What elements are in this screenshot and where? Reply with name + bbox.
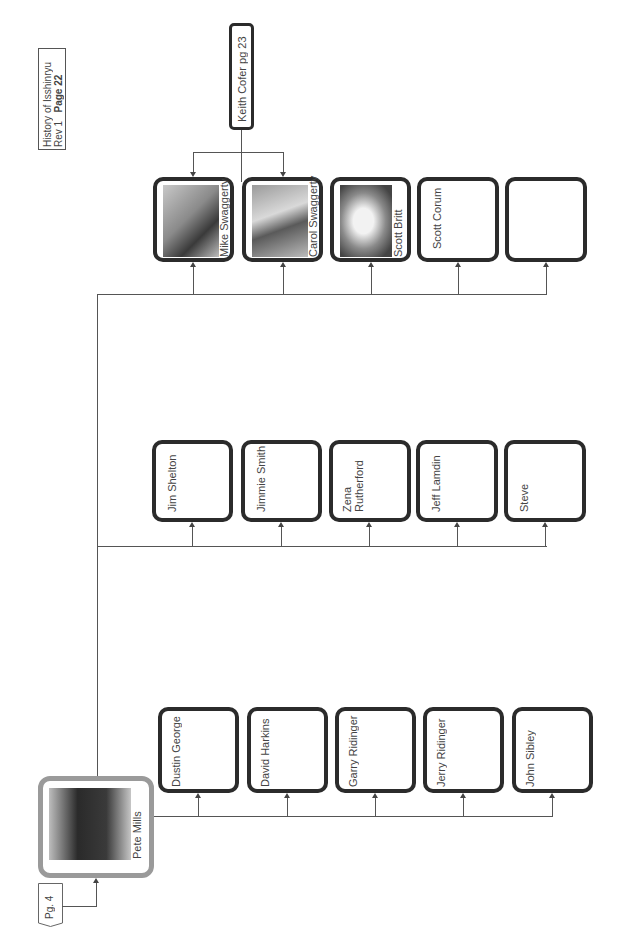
header-rev: Rev 1 Page 22 [53,53,64,147]
student-name: John Sibley [524,717,536,787]
arrow-icon [372,793,378,798]
root-name: Pete Mills [131,791,143,859]
connector [463,797,464,816]
connector [192,526,193,546]
connector [193,266,194,294]
connector [281,526,282,546]
connector [546,266,547,294]
connector [287,797,288,816]
connector [193,152,283,153]
student-name: Carol Swaggerty [307,185,319,257]
arrow-icon [549,793,555,798]
document-header: History of Isshinryu Rev 1 Page 22 [38,48,66,150]
student-name: Dustin George [170,717,182,787]
photo [252,185,308,257]
arrow-icon [284,793,290,798]
connector [457,526,458,546]
arrow-icon [368,262,374,267]
trunk-line [97,294,98,776]
keith-cofer-box[interactable]: Keith Cofer pg 23 [229,23,254,130]
arrow-icon [543,262,549,267]
header-title: History of Isshinryu [42,53,53,147]
student-name: Jim Shelton [166,450,178,512]
connector [96,882,97,907]
photo [49,788,131,860]
arrow-icon [195,793,201,798]
student-box[interactable]: John Sibley [512,707,593,793]
arrow-icon [460,793,466,798]
connector [371,266,372,294]
student-box[interactable] [505,177,587,262]
student-box[interactable]: Jerry Ridinger [423,707,504,793]
connector [62,906,96,907]
keith-cofer-label: Keith Cofer pg 23 [236,32,248,122]
page-ref-label: Pg. 4 [44,891,56,919]
student-box[interactable]: Jimmie Smith [241,440,322,522]
student-name: Steve [518,450,530,512]
connector [369,526,370,546]
connector [458,266,459,294]
student-name: Mike Swaggerty [218,185,230,257]
arrow-icon [190,262,196,267]
student-name: Scott Corum [431,187,443,249]
connector [241,130,242,152]
student-box[interactable]: Steve [504,440,586,522]
row1-bus [97,294,547,295]
student-name: Zena Rutherford [341,450,365,512]
off-page-reference[interactable]: Pg. 4 [38,883,63,927]
student-box[interactable]: Scott Britt [330,177,411,262]
student-name: Garry Ridinger [347,717,359,787]
row3-bus [154,816,553,817]
photo [340,185,392,257]
student-box[interactable]: Dustin George [158,707,239,793]
arrow-icon [455,262,461,267]
connector [552,797,553,816]
arrow-icon [542,522,548,527]
student-name: Jimmie Smith [255,450,267,512]
student-name: David Harkins [259,717,271,787]
student-box[interactable]: Scott Corum [417,177,499,262]
connector [283,266,284,294]
student-box[interactable]: David Harkins [247,707,328,793]
student-name: Jeff Lamdin [430,450,442,512]
student-box[interactable]: Zena Rutherford [329,440,411,522]
arrow-icon [454,522,460,527]
arrow-icon [93,878,99,883]
arrow-icon [189,522,195,527]
row2-bus [97,546,547,547]
root-box-pete-mills[interactable]: Pete Mills [38,776,154,878]
arrow-icon [278,522,284,527]
arrow-icon [366,522,372,527]
student-name: Scott Britt [392,185,404,257]
photo [163,185,219,257]
connector [375,797,376,816]
student-name: Jerry Ridinger [435,717,447,787]
connector [545,526,546,546]
student-box[interactable]: Jim Shelton [152,440,233,522]
student-box[interactable]: Jeff Lamdin [416,440,498,522]
connector [193,152,194,172]
arrow-icon [280,262,286,267]
connector [283,152,284,172]
connector [198,797,199,816]
student-box[interactable]: Mike Swaggerty [153,177,234,262]
header-page: Page 22 [53,75,64,113]
student-box[interactable]: Carol Swaggerty [242,177,323,262]
student-box[interactable]: Garry Ridinger [335,707,416,793]
